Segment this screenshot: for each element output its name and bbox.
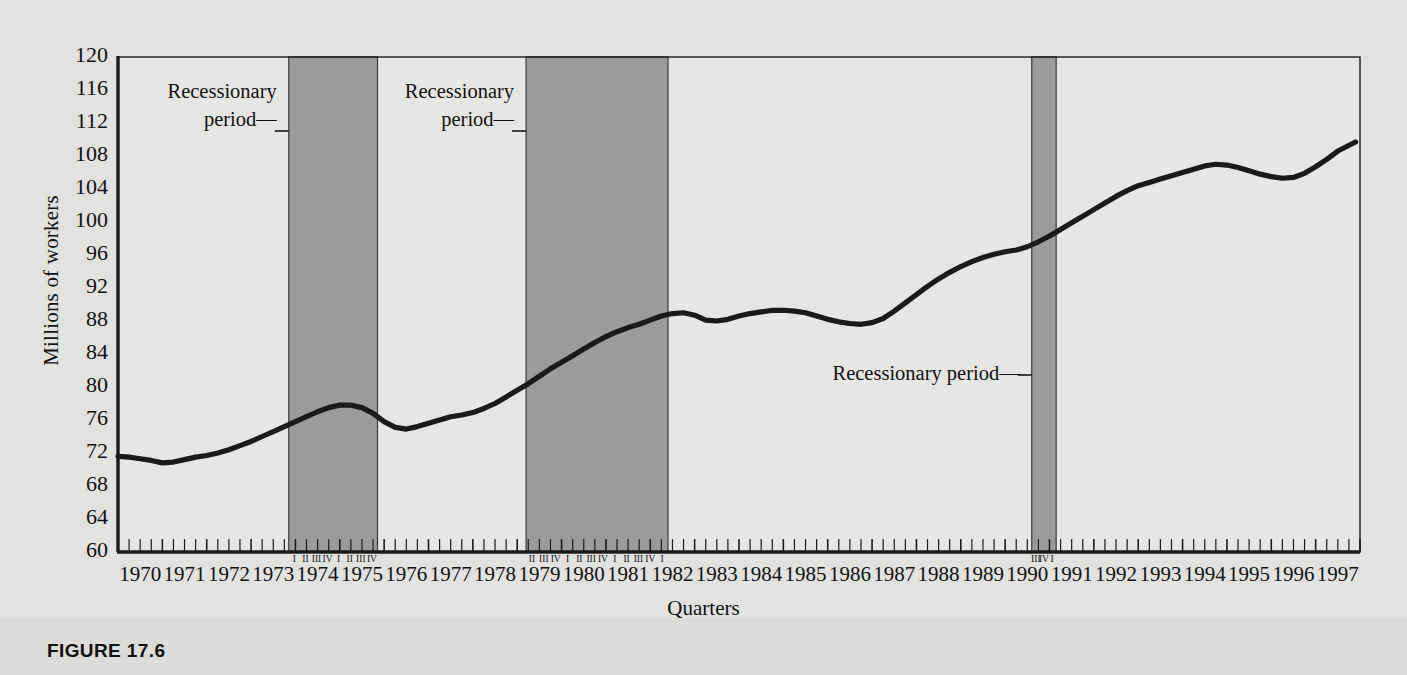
y-tick-label: 64 xyxy=(62,504,108,530)
y-tick-label: 88 xyxy=(62,306,108,332)
annotation-line: Recessionary period— xyxy=(770,360,1020,388)
y-tick-label: 96 xyxy=(62,240,108,266)
y-tick-label: 108 xyxy=(62,141,108,167)
y-tick-label: 104 xyxy=(62,174,108,200)
annotation-line: Recessionary xyxy=(344,78,514,106)
figure-container: Millions of workers 60646872768084889296… xyxy=(0,0,1407,675)
quarter-label: I xyxy=(1042,554,1062,564)
y-tick-label: 120 xyxy=(62,42,108,68)
y-tick-label: 72 xyxy=(62,438,108,464)
x-axis-title: Quarters xyxy=(0,596,1407,621)
recession-band-2 xyxy=(526,57,668,552)
annotation-line: period— xyxy=(107,106,277,134)
recession-annotation-1: Recessionaryperiod— xyxy=(107,78,277,133)
recession-band-3 xyxy=(1032,57,1056,552)
x-tick-label: 1997 xyxy=(1308,562,1368,587)
annotation-line: period— xyxy=(344,106,514,134)
y-tick-label: 60 xyxy=(62,537,108,563)
quarter-label: IV xyxy=(362,554,382,564)
y-tick-label: 92 xyxy=(62,273,108,299)
y-tick-label: 112 xyxy=(62,108,108,134)
recession-annotation-3: Recessionary period— xyxy=(770,360,1020,388)
y-tick-label: 76 xyxy=(62,405,108,431)
quarter-label: I xyxy=(652,554,672,564)
chart-card: Millions of workers 60646872768084889296… xyxy=(0,0,1407,618)
y-tick-label: 100 xyxy=(62,207,108,233)
y-tick-label: 68 xyxy=(62,471,108,497)
y-tick-label: 84 xyxy=(62,339,108,365)
y-tick-label: 116 xyxy=(62,75,108,101)
figure-caption: FIGURE 17.6 xyxy=(47,640,165,662)
annotation-line: Recessionary xyxy=(107,78,277,106)
recession-annotation-2: Recessionaryperiod— xyxy=(344,78,514,133)
y-tick-label: 80 xyxy=(62,372,108,398)
